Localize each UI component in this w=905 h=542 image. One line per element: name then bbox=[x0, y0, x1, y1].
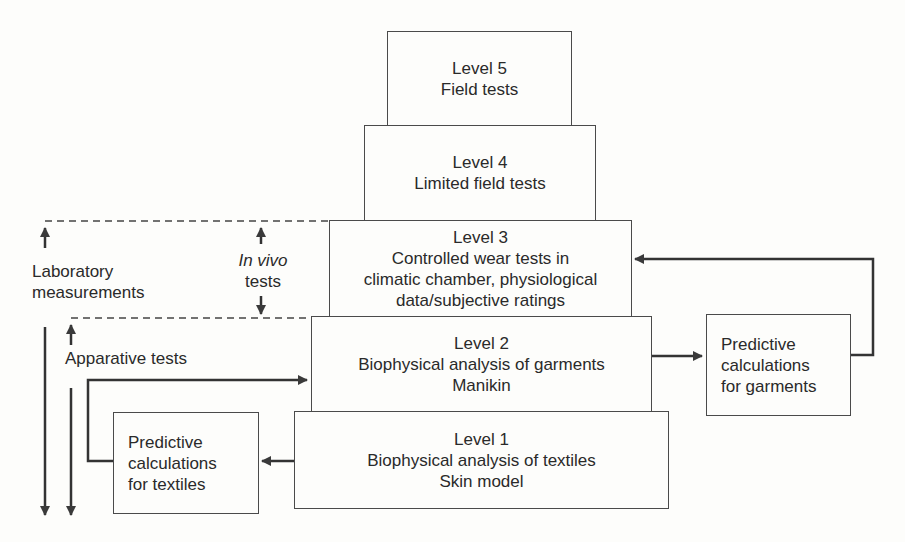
label-line: In vivo bbox=[234, 250, 292, 271]
level-desc: Skin model bbox=[439, 471, 523, 492]
apparative-tests-label: Apparative tests bbox=[65, 348, 187, 369]
in-vivo-tests-label: In vivo tests bbox=[234, 250, 292, 292]
box-line: calculations bbox=[721, 355, 810, 376]
level-2-box: Level 2 Biophysical analysis of garments… bbox=[311, 316, 652, 412]
box-line: for garments bbox=[721, 376, 816, 397]
box-line: Predictive bbox=[128, 432, 203, 453]
level-4-box: Level 4 Limited field tests bbox=[364, 125, 596, 221]
level-title: Level 4 bbox=[453, 152, 508, 173]
predictive-textiles-box: Predictive calculations for textiles bbox=[113, 412, 259, 514]
label-line: tests bbox=[234, 271, 292, 292]
level-desc: Limited field tests bbox=[414, 173, 545, 194]
box-line: calculations bbox=[128, 453, 217, 474]
box-line: Predictive bbox=[721, 334, 796, 355]
level-desc: Controlled wear tests in bbox=[392, 248, 570, 269]
predictive-garments-box: Predictive calculations for garments bbox=[706, 314, 851, 416]
box-line: for textiles bbox=[128, 474, 205, 495]
laboratory-measurements-label: Laboratory measurements bbox=[32, 261, 144, 303]
level-title: Level 5 bbox=[452, 58, 507, 79]
label-line: measurements bbox=[32, 282, 144, 303]
level-desc: Biophysical analysis of garments bbox=[358, 354, 605, 375]
level-5-box: Level 5 Field tests bbox=[387, 31, 572, 126]
level-title: Level 1 bbox=[454, 429, 509, 450]
level-desc: climatic chamber, physiological bbox=[364, 269, 597, 290]
level-desc: data/subjective ratings bbox=[396, 290, 565, 311]
level-3-box: Level 3 Controlled wear tests in climati… bbox=[329, 220, 632, 317]
level-desc: Field tests bbox=[441, 79, 518, 100]
level-1-box: Level 1 Biophysical analysis of textiles… bbox=[294, 411, 669, 509]
level-desc: Biophysical analysis of textiles bbox=[367, 450, 596, 471]
label-line: Laboratory bbox=[32, 261, 144, 282]
level-title: Level 2 bbox=[454, 333, 509, 354]
level-desc: Manikin bbox=[452, 375, 511, 396]
level-title: Level 3 bbox=[453, 227, 508, 248]
